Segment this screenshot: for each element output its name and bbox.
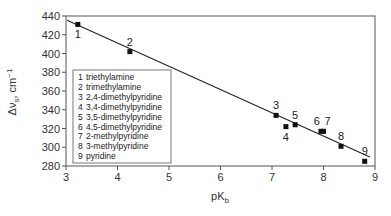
legend-entry-number: 8 (78, 141, 83, 151)
x-tick-label: 7 (269, 171, 275, 183)
data-point (75, 22, 80, 27)
legend-entry-number: 7 (78, 131, 83, 141)
y-tick-label: 400 (42, 48, 60, 60)
y-tick-label: 340 (42, 104, 60, 116)
data-point (339, 144, 344, 149)
x-tick-label: 8 (320, 171, 326, 183)
legend-entry-label: pyridine (86, 151, 116, 161)
x-axis-title: pKb (211, 190, 229, 205)
y-tick-label: 360 (42, 85, 60, 97)
y-tick-label: 380 (42, 66, 60, 78)
data-point-label: 2 (127, 36, 133, 48)
legend: 1triethylamine2trimethylamine32,4-dimeth… (73, 70, 171, 163)
data-point (362, 159, 367, 164)
data-point-label: 9 (362, 145, 368, 157)
data-point-label: 8 (338, 130, 344, 142)
data-point (274, 113, 279, 118)
data-point-label: 7 (324, 115, 330, 127)
legend-entry-number: 5 (78, 112, 83, 122)
data-point (283, 124, 288, 129)
data-point-label: 3 (273, 99, 279, 111)
legend-entry-number: 4 (78, 102, 83, 112)
x-tick-label: 5 (166, 171, 172, 183)
y-tick-label: 300 (42, 141, 60, 153)
data-point-label: 5 (292, 109, 298, 121)
y-tick-label: 440 (42, 10, 60, 22)
legend-entry-number: 9 (78, 151, 83, 161)
legend-entry-label: 3-methylpyridine (86, 141, 149, 151)
y-tick-label: 420 (42, 29, 60, 41)
legend-entry-label: 2-methylpyridine (86, 131, 149, 141)
legend-entry-number: 2 (78, 82, 83, 92)
data-point (321, 129, 326, 134)
legend-entry-label: triethylamine (86, 72, 134, 82)
x-tick-label: 4 (114, 171, 120, 183)
data-point (127, 49, 132, 54)
legend-entry-number: 1 (78, 72, 83, 82)
y-tick-label: 320 (42, 123, 60, 135)
data-point-label: 6 (314, 115, 320, 127)
legend-entry-label: 3,4-dimethylpyridine (86, 102, 162, 112)
legend-entry-number: 3 (78, 92, 83, 102)
data-point-label: 1 (75, 28, 81, 40)
data-point (293, 122, 298, 127)
x-tick-label: 6 (217, 171, 223, 183)
chart: 3456789280300320340360380400420440 12345… (0, 0, 391, 216)
legend-entry-label: 2,4-dimethylpyridine (86, 92, 162, 102)
legend-entry-number: 6 (78, 122, 83, 132)
x-tick-label: 9 (372, 171, 378, 183)
data-point-label: 4 (283, 131, 289, 143)
x-tick-label: 3 (63, 171, 69, 183)
legend-entry-label: 4,5-dimethylpyridine (86, 122, 162, 132)
y-tick-label: 280 (42, 160, 60, 172)
legend-entry-label: trimethylamine (86, 82, 142, 92)
y-axis-title: Δνs, cm−1 (5, 68, 21, 115)
legend-entry-label: 3,5-dimethylpyridine (86, 112, 162, 122)
